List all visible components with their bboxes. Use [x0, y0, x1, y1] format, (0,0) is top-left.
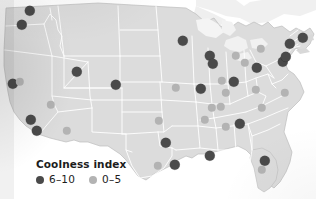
- legend-label-high: 6–10: [49, 174, 75, 185]
- legend-item-high: 6–10: [36, 174, 75, 185]
- data-point: [170, 160, 180, 170]
- data-point: [172, 84, 180, 92]
- data-point: [229, 77, 239, 87]
- coolness-index-map-figure: Coolness index 6–10 0–5: [0, 0, 316, 199]
- data-point: [232, 52, 240, 60]
- data-point: [32, 126, 42, 136]
- data-point: [26, 115, 36, 125]
- legend-title: Coolness index: [36, 158, 126, 170]
- data-point: [257, 45, 265, 53]
- data-point: [25, 6, 35, 16]
- data-point: [258, 104, 266, 112]
- data-point: [201, 116, 209, 124]
- data-point: [154, 162, 162, 170]
- data-point: [218, 77, 226, 85]
- legend-swatch-low-icon: [89, 176, 97, 184]
- data-point: [178, 36, 188, 46]
- data-point: [47, 101, 55, 109]
- data-point: [208, 104, 216, 112]
- data-point: [281, 52, 291, 62]
- data-point: [17, 20, 27, 30]
- data-point: [16, 78, 24, 86]
- legend: Coolness index 6–10 0–5: [36, 158, 126, 185]
- legend-items: 6–10 0–5: [36, 174, 126, 185]
- data-point: [208, 59, 218, 69]
- legend-label-low: 0–5: [102, 174, 121, 185]
- data-point: [260, 156, 270, 166]
- data-point: [252, 63, 262, 73]
- data-point: [161, 138, 171, 148]
- data-point: [235, 119, 245, 129]
- data-point: [72, 67, 82, 77]
- data-point: [196, 84, 206, 94]
- data-point: [298, 33, 308, 43]
- legend-swatch-high-icon: [36, 176, 44, 184]
- data-point: [205, 151, 215, 161]
- data-point: [241, 59, 249, 67]
- data-point: [258, 166, 266, 174]
- data-point: [111, 80, 121, 90]
- data-point: [285, 39, 295, 49]
- data-point: [222, 89, 230, 97]
- legend-item-low: 0–5: [89, 174, 121, 185]
- data-point: [252, 86, 260, 94]
- data-point: [155, 117, 163, 125]
- data-point: [63, 127, 71, 135]
- data-point: [217, 103, 225, 111]
- data-point: [281, 89, 289, 97]
- data-point: [222, 123, 230, 131]
